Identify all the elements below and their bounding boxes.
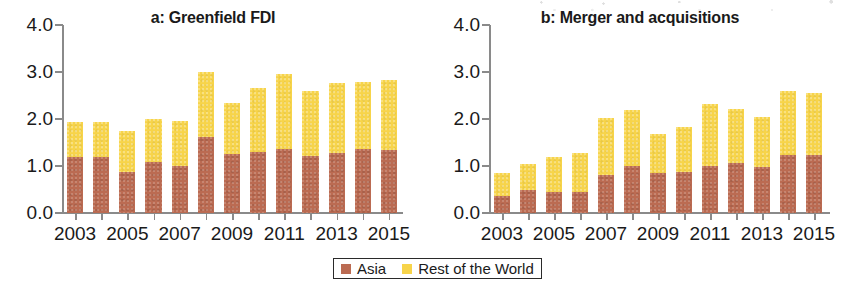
bar-2013 [329, 83, 345, 213]
bar-2005 [119, 131, 135, 213]
legend-label-rest-of-the-world: Rest of the World [418, 260, 534, 277]
bar-2012 [302, 91, 318, 213]
chart-a-x-tick-label: 2009 [211, 223, 253, 245]
bar-segment-asia-2005 [546, 192, 562, 213]
bar-2009 [650, 134, 666, 213]
chart-b-plot-area: 0.01.02.03.04.02003200520072009201120132… [489, 25, 827, 213]
bar-segment-asia-2006 [145, 162, 161, 213]
legend-entry-asia: Asia [341, 260, 386, 277]
bar-2006 [572, 153, 588, 213]
bar-segment-rest-of-the-world-2007 [598, 118, 614, 175]
bar-2012 [728, 109, 744, 213]
chart-a-y-tick-mark [55, 24, 63, 26]
chart-a-x-tick-mark [284, 213, 286, 220]
chart-b-x-tick-mark [606, 213, 608, 220]
chart-b-x-tick-mark [788, 213, 790, 220]
bar-segment-rest-of-the-world-2014 [355, 82, 371, 149]
bar-2011 [276, 74, 292, 213]
chart-a-x-tick-label: 2005 [106, 223, 148, 245]
bar-segment-asia-2015 [381, 150, 397, 213]
chart-a-y-tick-label: 3.0 [27, 61, 53, 83]
bar-segment-rest-of-the-world-2003 [494, 173, 510, 196]
chart-a-y-tick-mark [55, 165, 63, 167]
bar-segment-asia-2009 [224, 154, 240, 213]
bar-segment-rest-of-the-world-2012 [302, 91, 318, 156]
bar-segment-rest-of-the-world-2010 [250, 88, 266, 152]
chart-panel-a: a: Greenfield FDI 0.01.02.03.04.02003200… [0, 0, 425, 250]
chart-a-y-tick-label: 0.0 [27, 202, 53, 224]
bar-segment-asia-2006 [572, 192, 588, 213]
legend-entry-rest-of-the-world: Rest of the World [402, 260, 534, 277]
chart-b-x-tick-mark [502, 213, 504, 220]
chart-b-y-tick-mark [482, 212, 490, 214]
chart-b-x-tick-mark [684, 213, 686, 220]
bar-segment-rest-of-the-world-2006 [145, 119, 161, 163]
chart-b-y-tick-mark [482, 71, 490, 73]
chart-a-y-tick-label: 2.0 [27, 108, 53, 130]
chart-a-x-tick-mark [127, 213, 129, 220]
bar-2006 [145, 119, 161, 213]
bar-2004 [93, 122, 109, 213]
bar-segment-asia-2007 [598, 175, 614, 213]
bar-2014 [780, 91, 796, 213]
chart-b-x-tick-label: 2007 [585, 223, 627, 245]
chart-b-y-tick-mark [482, 24, 490, 26]
bar-segment-asia-2005 [119, 172, 135, 213]
bar-2013 [754, 117, 770, 213]
bar-2003 [494, 173, 510, 213]
chart-b-x-tick-label: 2015 [793, 223, 835, 245]
chart-a-y-tick-mark [55, 71, 63, 73]
bar-segment-rest-of-the-world-2008 [624, 110, 640, 166]
chart-a-x-tick-label: 2013 [315, 223, 357, 245]
bar-segment-asia-2013 [754, 167, 770, 213]
bar-segment-rest-of-the-world-2011 [702, 104, 718, 166]
chart-b-x-tick-label: 2005 [533, 223, 575, 245]
chart-a-y-tick-label: 4.0 [27, 14, 53, 36]
legend-label-asia: Asia [357, 260, 386, 277]
chart-a-x-tick-mark [363, 213, 365, 220]
bar-2008 [198, 72, 214, 213]
chart-b-x-tick-mark [554, 213, 556, 220]
bar-segment-asia-2003 [494, 196, 510, 213]
bar-segment-rest-of-the-world-2014 [780, 91, 796, 155]
bar-2010 [250, 88, 266, 213]
bar-segment-asia-2015 [806, 155, 822, 213]
chart-b-y-tick-label: 1.0 [454, 155, 480, 177]
bar-segment-asia-2010 [676, 172, 692, 213]
bar-segment-asia-2014 [355, 149, 371, 213]
bar-2004 [520, 164, 536, 213]
bar-segment-rest-of-the-world-2013 [754, 117, 770, 167]
chart-b-y-tick-label: 0.0 [454, 202, 480, 224]
bar-2008 [624, 110, 640, 213]
chart-a-x-tick-mark [389, 213, 391, 220]
bar-segment-asia-2014 [780, 155, 796, 213]
bar-segment-asia-2004 [520, 190, 536, 214]
bar-2007 [598, 118, 614, 213]
bar-segment-rest-of-the-world-2005 [546, 157, 562, 192]
bar-segment-asia-2011 [276, 149, 292, 213]
bar-segment-rest-of-the-world-2007 [172, 121, 188, 166]
bar-segment-rest-of-the-world-2008 [198, 72, 214, 137]
chart-a-y-tick-label: 1.0 [27, 155, 53, 177]
chart-a-x-tick-mark [232, 213, 234, 220]
bar-segment-rest-of-the-world-2004 [520, 164, 536, 189]
bar-segment-rest-of-the-world-2005 [119, 131, 135, 172]
legend-swatch-asia-icon [341, 264, 351, 274]
chart-b-x-tick-mark [710, 213, 712, 220]
chart-a-x-tick-label: 2003 [54, 223, 96, 245]
chart-b-x-tick-label: 2003 [481, 223, 523, 245]
chart-a-x-tick-label: 2011 [264, 223, 305, 245]
chart-b-y-tick-label: 2.0 [454, 108, 480, 130]
legend-swatch-rest-of-the-world-icon [402, 264, 412, 274]
chart-panel-b: b: Merger and acquisitions 0.01.02.03.04… [425, 0, 850, 250]
chart-b-x-tick-label: 2013 [741, 223, 783, 245]
bar-segment-asia-2012 [728, 163, 744, 213]
bar-segment-rest-of-the-world-2010 [676, 127, 692, 172]
bar-segment-rest-of-the-world-2004 [93, 122, 109, 157]
chart-a-x-tick-mark [206, 213, 208, 220]
chart-a-x-tick-mark [75, 213, 77, 220]
bar-segment-asia-2007 [172, 166, 188, 213]
bar-segment-asia-2003 [67, 157, 83, 213]
chart-a-x-tick-mark [258, 213, 260, 220]
chart-b-y-tick-mark [482, 165, 490, 167]
